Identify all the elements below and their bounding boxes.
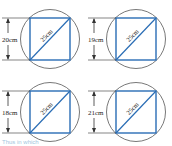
arrow-up-icon xyxy=(6,91,10,96)
arrow-up-icon xyxy=(6,18,10,23)
figure-b: 19cm25cm xyxy=(88,10,166,69)
figure-a: 20cm25cm xyxy=(2,10,80,69)
footer-text: Thus in which xyxy=(2,139,39,145)
diagonal xyxy=(30,18,70,60)
arrow-down-icon xyxy=(6,55,10,60)
diagram-canvas: 20cm25cm19cm25cm18cm25cm21cm25cm Thus in… xyxy=(0,0,172,146)
arrow-down-icon xyxy=(92,55,96,60)
arrow-down-icon xyxy=(92,128,96,133)
arrow-down-icon xyxy=(6,128,10,133)
height-label: 18cm xyxy=(2,109,18,117)
diagonal-label: 25cm xyxy=(39,28,54,43)
arrow-up-icon xyxy=(92,91,96,96)
diagonal xyxy=(30,91,70,133)
figure-d: 21cm25cm xyxy=(88,83,166,142)
figure-c: 18cm25cm xyxy=(2,83,80,142)
height-label: 20cm xyxy=(2,36,18,44)
diagonal-label: 25cm xyxy=(125,28,140,43)
diagonal xyxy=(116,18,156,60)
diagonal xyxy=(116,91,156,133)
diagonal-label: 25cm xyxy=(125,101,140,116)
arrow-up-icon xyxy=(92,18,96,23)
height-label: 21cm xyxy=(88,109,104,117)
height-label: 19cm xyxy=(88,36,104,44)
diagonal-label: 25cm xyxy=(39,101,54,116)
